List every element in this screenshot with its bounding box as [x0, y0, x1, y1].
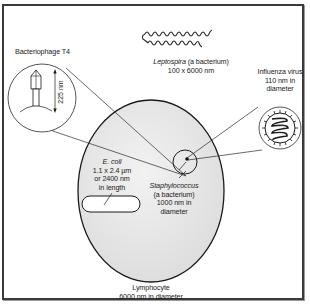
leptospira-size: 100 x 6000 nm [168, 66, 214, 75]
bacteriophage-size-label: 225 nm [57, 80, 64, 104]
bacteriophage-magnified [8, 64, 76, 132]
influenza-magnified [259, 107, 301, 149]
ecoli-label: E. coli 1.1 x 2.4 µm or 2400 nm in lengt… [84, 158, 140, 192]
influenza-label: Influenza virus 110 nm in diameter [252, 68, 308, 94]
staphylococcus-size-unit: diameter [160, 207, 187, 216]
ecoli-length-unit: in length [99, 183, 125, 192]
staphylococcus-label: Staphylococcus (a bacterium) 1000 nm in … [144, 182, 204, 216]
lymphocyte-size: 6000 nm in diameter [119, 292, 183, 301]
influenza-size-unit: diameter [266, 84, 293, 93]
leptospira-label: Leptospira (a bacterium) 100 x 6000 nm [148, 58, 234, 75]
bacteriophage-label: Bacteriophage T4 [15, 48, 70, 57]
lymphocyte-label: Lymphocyte 6000 nm in diameter [106, 284, 196, 301]
leptospira-bacterium [142, 30, 212, 47]
ecoli-cell [82, 193, 140, 212]
